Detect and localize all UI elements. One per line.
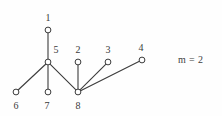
graph-edge-5-8 xyxy=(50,64,76,90)
graph-node-7 xyxy=(45,89,51,95)
node-layer xyxy=(13,27,145,95)
graph-edge-5-6 xyxy=(18,64,46,90)
graph-node-label-5: 5 xyxy=(49,45,63,55)
graph-node-label-2: 2 xyxy=(71,45,85,55)
graph-node-label-4: 4 xyxy=(134,43,148,53)
graph-node-label-8: 8 xyxy=(71,101,85,111)
graph-node-label-7: 7 xyxy=(40,101,54,111)
annotation-m-equals: m = 2 xyxy=(178,54,203,65)
graph-node-2 xyxy=(75,59,81,65)
graph-node-label-6: 6 xyxy=(9,101,23,111)
graph-diagram: 12345678 m = 2 xyxy=(0,0,222,116)
graph-node-6 xyxy=(13,89,19,95)
graph-node-label-1: 1 xyxy=(41,13,55,23)
graph-edge-3-8 xyxy=(80,64,106,90)
graph-node-4 xyxy=(139,57,145,63)
graph-node-1 xyxy=(45,27,51,33)
graph-edge-4-8 xyxy=(81,61,140,90)
graph-node-label-3: 3 xyxy=(101,45,115,55)
graph-node-3 xyxy=(105,59,111,65)
graph-node-8 xyxy=(75,89,81,95)
graph-node-5 xyxy=(45,59,51,65)
